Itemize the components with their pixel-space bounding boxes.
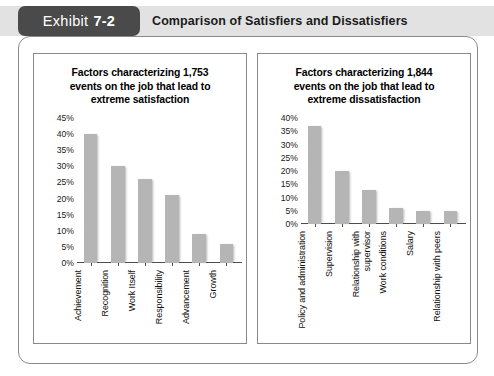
y-axis-tick-label: 40% [272,113,298,123]
category-label: Salary [405,231,415,256]
y-axis-tick-label: 20% [48,194,74,204]
exhibit-tab-label: Exhibit [43,13,89,29]
bar [416,211,430,224]
chart-title-line: events on the job that lead to [40,80,240,94]
category-labels-dissatisfiers: Policy and administrationSupervisionRela… [287,227,470,340]
category-label: Policy and administration [297,231,307,329]
y-axis-tick-label: 5% [272,206,298,216]
chart-title-satisfiers: Factors characterizing 1,753 events on t… [40,66,240,107]
bars-satisfiers [77,118,240,263]
exhibit-tab-number: 7-2 [93,13,115,29]
bar [111,166,125,263]
chart-panel-dissatisfiers: Factors characterizing 1,844 events on t… [257,53,471,344]
category-label: Achievement [73,270,83,321]
y-axis-tick-label: 35% [272,126,298,136]
exhibit-tab: Exhibit 7-2 [18,6,140,36]
y-axis-dissatisfiers: 0%5%10%15%20%25%30%35%40% [272,118,298,224]
category-label: Relationship with supervisor [351,231,372,331]
category-labels-satisfiers: AchievementRecognitionWork ItselfRespons… [63,266,246,340]
y-axis-tick-label: 10% [48,226,74,236]
chart-title-dissatisfiers: Factors characterizing 1,844 events on t… [264,66,464,107]
category-label: Work Itself [127,270,137,311]
plot-area-satisfiers: 0%5%10%15%20%25%30%35%40%45% [48,118,240,263]
x-axis-line [301,223,466,224]
y-axis-tick-label: 30% [48,161,74,171]
bar [84,134,98,263]
y-axis-tick-label: 40% [48,129,74,139]
y-axis-tick-label: 45% [48,113,74,123]
bar [389,208,403,224]
chart-panel-satisfiers: Factors characterizing 1,753 events on t… [33,53,247,344]
exhibit-frame: Factors characterizing 1,753 events on t… [18,36,478,364]
category-label: Relationship with peers [432,231,442,322]
y-axis-tick-label: 15% [272,179,298,189]
x-axis-line [77,262,242,263]
y-axis-tick-label: 25% [272,153,298,163]
bar [362,190,376,224]
category-label: Growth [208,270,218,298]
chart-title-line: extreme dissatisfaction [264,93,464,107]
exhibit-title: Comparison of Satisfiers and Dissatisfie… [152,6,408,36]
chart-title-line: Factors characterizing 1,753 [40,66,240,80]
bar [192,234,206,263]
category-label: Recognition [100,270,110,316]
y-axis-tick-label: 15% [48,210,74,220]
y-axis-tick-label: 35% [48,145,74,155]
y-axis-tick-label: 20% [272,166,298,176]
chart-title-line: events on the job that lead to [264,80,464,94]
chart-title-line: Factors characterizing 1,844 [264,66,464,80]
bar [444,211,458,224]
bar [138,179,152,263]
y-axis-tick-label: 25% [48,177,74,187]
bar [308,126,322,224]
y-axis-satisfiers: 0%5%10%15%20%25%30%35%40%45% [48,118,74,263]
y-axis-tick-label: 5% [48,242,74,252]
category-label: Advancement [181,270,191,324]
category-label: Responsibility [154,270,164,324]
y-axis-tick-label: 10% [272,193,298,203]
plot-area-dissatisfiers: 0%5%10%15%20%25%30%35%40% [272,118,464,224]
chart-title-line: extreme satisfaction [40,93,240,107]
bar [220,244,234,263]
bar [165,195,179,263]
bars-dissatisfiers [301,118,464,224]
bar [335,171,349,224]
category-label: Work conditions [378,231,388,293]
category-label: Supervision [324,231,334,277]
y-axis-tick-label: 30% [272,140,298,150]
